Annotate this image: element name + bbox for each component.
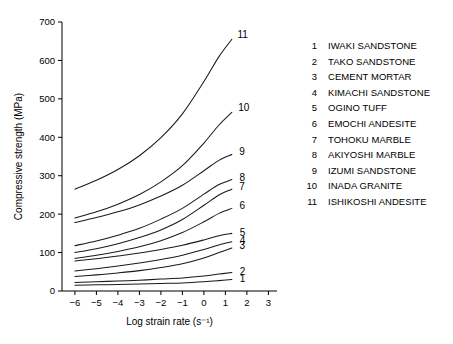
legend-row: 7TOHOKU MARBLE bbox=[297, 132, 453, 148]
legend-number: 5 bbox=[297, 100, 317, 116]
x-tick-label: 1 bbox=[223, 297, 228, 308]
y-tick-label: 0 bbox=[50, 285, 55, 296]
legend-number: 3 bbox=[297, 69, 317, 85]
legend-number: 8 bbox=[297, 147, 317, 163]
legend-row: 1IWAKI SANDSTONE bbox=[297, 38, 453, 54]
legend-row: 9IZUMI SANDSTONE bbox=[297, 163, 453, 179]
x-tick-label: 3 bbox=[266, 297, 271, 308]
legend-label: IWAKI SANDSTONE bbox=[328, 38, 417, 54]
legend-number: 9 bbox=[297, 163, 317, 179]
y-tick-label: 600 bbox=[39, 55, 55, 66]
legend-row: 3CEMENT MORTAR bbox=[297, 69, 453, 85]
legend-number: 6 bbox=[297, 116, 317, 132]
legend-label: EMOCHI ANDESITE bbox=[328, 116, 416, 132]
y-tick-label: 400 bbox=[39, 132, 55, 143]
curve-group bbox=[75, 39, 232, 285]
curve-3 bbox=[75, 248, 232, 276]
legend-label: OGINO TUFF bbox=[328, 100, 387, 116]
legend-label: TAKO SANDSTONE bbox=[328, 54, 415, 70]
legend-row: 11ISHIKOSHI ANDESITE bbox=[297, 194, 453, 210]
legend-label: AKIYOSHI MARBLE bbox=[328, 147, 415, 163]
legend-label: TOHOKU MARBLE bbox=[328, 132, 411, 148]
x-tick-label: −2 bbox=[155, 297, 166, 308]
figure: 0100200300400500600700 −6−5−4−3−2−10123 … bbox=[0, 0, 453, 344]
legend-number: 2 bbox=[297, 54, 317, 70]
curve-end-label-10: 10 bbox=[238, 102, 250, 113]
legend-row: 10INADA GRANITE bbox=[297, 178, 453, 194]
curve-end-label-11: 11 bbox=[237, 29, 248, 40]
chart-svg: 0100200300400500600700 −6−5−4−3−2−10123 … bbox=[0, 0, 300, 330]
legend-row: 8AKIYOSHI MARBLE bbox=[297, 147, 453, 163]
x-tick-label: 0 bbox=[201, 297, 206, 308]
y-tick-label: 100 bbox=[39, 247, 55, 258]
x-tick-label: 2 bbox=[244, 297, 249, 308]
y-tick-label: 500 bbox=[39, 93, 55, 104]
curve-1 bbox=[75, 279, 232, 285]
legend-number: 7 bbox=[297, 132, 317, 148]
legend-row: 2TAKO SANDSTONE bbox=[297, 54, 453, 70]
y-tick-label: 300 bbox=[39, 170, 55, 181]
x-tick-label: −5 bbox=[91, 297, 102, 308]
legend-label: KIMACHI SANDSTONE bbox=[328, 85, 430, 101]
x-axis-ticks: −6−5−4−3−2−10123 bbox=[69, 291, 271, 308]
curve-11 bbox=[75, 39, 232, 189]
legend-label: ISHIKOSHI ANDESITE bbox=[328, 194, 427, 210]
legend-number: 11 bbox=[297, 194, 317, 210]
curve-end-label-8: 8 bbox=[239, 172, 245, 183]
legend-label: CEMENT MORTAR bbox=[328, 69, 412, 85]
legend: 1IWAKI SANDSTONE2TAKO SANDSTONE3CEMENT M… bbox=[297, 38, 453, 210]
curve-end-label-9: 9 bbox=[239, 146, 245, 157]
legend-label: IZUMI SANDSTONE bbox=[328, 163, 416, 179]
curve-end-label-2: 2 bbox=[240, 266, 246, 277]
legend-row: 4KIMACHI SANDSTONE bbox=[297, 85, 453, 101]
plot-area: 0100200300400500600700 −6−5−4−3−2−10123 … bbox=[0, 0, 300, 330]
y-axis-ticks: 0100200300400500600700 bbox=[39, 16, 62, 296]
x-tick-label: −6 bbox=[69, 297, 80, 308]
legend-row: 6EMOCHI ANDESITE bbox=[297, 116, 453, 132]
legend-label: INADA GRANITE bbox=[328, 178, 402, 194]
x-tick-label: −4 bbox=[112, 297, 123, 308]
y-tick-label: 700 bbox=[39, 16, 55, 27]
legend-number: 10 bbox=[297, 178, 317, 194]
x-tick-label: −3 bbox=[134, 297, 145, 308]
legend-number: 4 bbox=[297, 85, 317, 101]
curve-label-group: 1234567891011 bbox=[237, 29, 249, 284]
legend-number: 1 bbox=[297, 38, 317, 54]
curve-end-label-5: 5 bbox=[240, 227, 246, 238]
curve-9 bbox=[75, 155, 232, 223]
y-axis-title: Compressive strength (MPa) bbox=[13, 93, 24, 220]
y-tick-label: 200 bbox=[39, 209, 55, 220]
curve-8 bbox=[75, 180, 232, 246]
x-axis-title: Log strain rate (s⁻¹) bbox=[126, 316, 213, 327]
legend-row: 5OGINO TUFF bbox=[297, 100, 453, 116]
curve-end-label-6: 6 bbox=[239, 200, 245, 211]
x-tick-label: −1 bbox=[177, 297, 188, 308]
